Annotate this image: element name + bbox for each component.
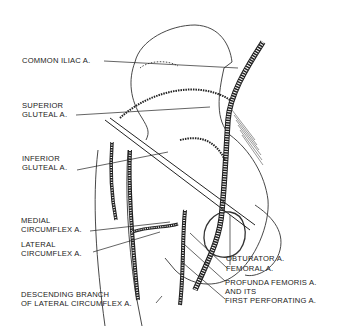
label-superior-gluteal-artery-line1: SUPERIOR bbox=[22, 102, 63, 110]
label-descending-branch-line2: OF LATERAL CIRCUMFLEX A. bbox=[21, 300, 132, 308]
label-inferior-gluteal-artery-line2: GLUTEAL A. bbox=[22, 164, 67, 172]
label-superior-gluteal-artery-line2: GLUTEAL A. bbox=[22, 111, 67, 119]
label-obturator-artery: OBTURATOR A. bbox=[226, 255, 284, 263]
label-lateral-circumflex-artery-line1: LATERAL bbox=[21, 241, 56, 249]
label-descending-branch-line1: DESCENDING BRANCH bbox=[21, 291, 109, 299]
label-profunda-femoris-line2: AND ITS bbox=[225, 288, 256, 296]
label-profunda-femoris-line3: FIRST PERFORATING A. bbox=[225, 297, 316, 305]
label-common-iliac-artery: COMMON ILIAC A. bbox=[22, 57, 90, 65]
label-femoral-artery: FEMORAL A. bbox=[226, 265, 273, 273]
label-medial-circumflex-artery-line2: CIRCUMFLEX A. bbox=[21, 226, 82, 234]
label-lateral-circumflex-artery-line2: CIRCUMFLEX A. bbox=[21, 250, 82, 258]
label-medial-circumflex-artery-line1: MEDIAL bbox=[21, 217, 50, 225]
label-inferior-gluteal-artery-line1: INFERIOR bbox=[22, 155, 60, 163]
label-profunda-femoris-line1: PROFUNDA FEMORIS A. bbox=[225, 279, 317, 287]
